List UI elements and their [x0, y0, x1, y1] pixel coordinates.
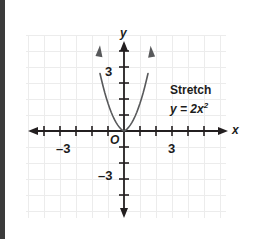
figure-canvas: –3 3 3 –3 O x y Stretch y = 2x2 — [0, 0, 256, 239]
y-axis-label: y — [120, 27, 127, 39]
annotation-title: Stretch — [170, 84, 211, 96]
annotation-equation-exponent: 2 — [204, 101, 208, 110]
coordinate-plane-graph — [0, 0, 256, 239]
y-axis-tick-label-3: 3 — [105, 65, 112, 78]
y-axis-tick-label-negative-3: –3 — [98, 169, 112, 182]
annotation-equation-base: y = 2x — [170, 102, 204, 116]
x-axis-tick-label-3: 3 — [168, 142, 175, 155]
grid-lines — [26, 35, 226, 218]
annotation-equation: y = 2x2 — [170, 102, 208, 115]
x-axis-label: x — [232, 124, 239, 136]
parabola-curve — [95, 45, 155, 131]
origin-label: O — [110, 134, 119, 146]
x-axis-tick-label-negative-3: –3 — [56, 142, 70, 155]
